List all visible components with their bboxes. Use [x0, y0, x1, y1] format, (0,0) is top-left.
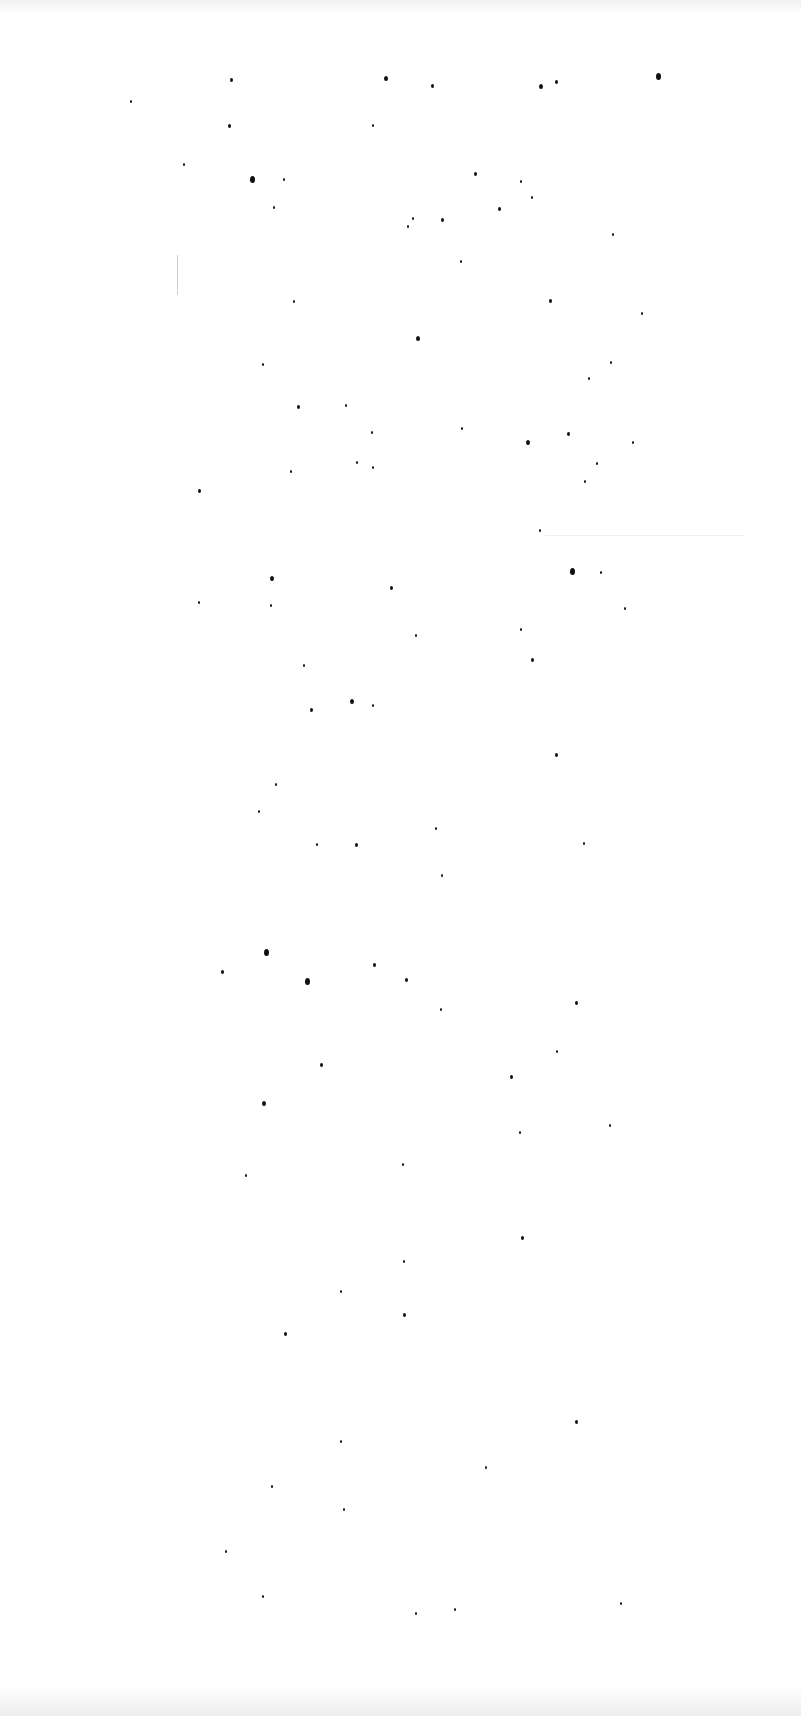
- noise-speck: [390, 586, 393, 590]
- noise-speck: [221, 970, 224, 974]
- noise-speck: [520, 180, 522, 183]
- noise-speck: [372, 466, 374, 469]
- noise-speck: [656, 73, 661, 80]
- noise-speck: [262, 1101, 266, 1106]
- noise-speck: [555, 80, 558, 84]
- noise-speck: [596, 462, 598, 465]
- noise-speck: [431, 84, 434, 88]
- noise-speck: [556, 1050, 558, 1053]
- noise-speck: [198, 601, 200, 604]
- noise-speck: [384, 76, 388, 81]
- noise-speck: [270, 604, 272, 607]
- noise-speck: [355, 843, 358, 847]
- noise-speck: [435, 827, 437, 830]
- noise-speck: [584, 480, 586, 483]
- noise-speck: [356, 461, 358, 464]
- noise-speck: [520, 628, 522, 631]
- noise-speck: [293, 300, 295, 303]
- noise-speck: [632, 441, 634, 444]
- noise-speck: [372, 124, 374, 127]
- noise-speck: [531, 196, 533, 199]
- noise-speck: [345, 404, 347, 407]
- noise-speck: [350, 699, 354, 704]
- noise-speck: [526, 440, 530, 445]
- noise-speck: [415, 634, 417, 637]
- scan-bottom-edge: [0, 1686, 801, 1716]
- noise-speck: [609, 1124, 611, 1127]
- noise-speck: [250, 176, 255, 183]
- noise-speck: [498, 207, 501, 211]
- noise-speck: [284, 1332, 287, 1336]
- noise-speck: [555, 753, 558, 757]
- noise-speck: [290, 470, 292, 473]
- noise-speck: [407, 225, 409, 228]
- noise-speck: [343, 1508, 345, 1511]
- noise-speck: [519, 1131, 521, 1134]
- noise-speck: [275, 783, 277, 786]
- noise-speck: [320, 1063, 323, 1067]
- noise-speck: [641, 312, 643, 315]
- noise-speck: [454, 1608, 456, 1611]
- noise-speck: [245, 1174, 247, 1177]
- noise-speck: [521, 1236, 524, 1240]
- noise-speck: [262, 1595, 264, 1598]
- noise-speck: [198, 489, 201, 493]
- noise-speck: [460, 260, 462, 263]
- noise-speck: [461, 427, 463, 430]
- noise-speck: [441, 218, 444, 222]
- noise-speck: [539, 84, 543, 89]
- noise-speck: [567, 432, 570, 436]
- noise-speck: [403, 1313, 406, 1317]
- noise-speck: [588, 377, 590, 380]
- noise-speck: [549, 299, 552, 303]
- noise-speck: [510, 1075, 513, 1079]
- noise-speck: [230, 78, 233, 82]
- noise-speck: [539, 529, 541, 532]
- noise-speck: [440, 1008, 442, 1011]
- noise-speck: [316, 843, 318, 846]
- noise-speck: [273, 206, 275, 209]
- scan-noise-layer: [0, 0, 801, 1716]
- noise-speck: [225, 1550, 227, 1553]
- noise-speck: [371, 431, 373, 434]
- noise-speck: [416, 336, 420, 341]
- noise-speck: [264, 949, 269, 956]
- noise-speck: [372, 704, 374, 707]
- noise-speck: [130, 100, 132, 103]
- noise-speck: [415, 1612, 417, 1615]
- noise-speck: [340, 1440, 342, 1443]
- noise-speck: [624, 607, 626, 610]
- noise-speck: [283, 178, 285, 181]
- noise-speck: [262, 363, 264, 366]
- noise-speck: [310, 708, 313, 712]
- noise-speck: [474, 172, 477, 176]
- noise-speck: [270, 576, 274, 581]
- noise-speck: [303, 664, 305, 667]
- noise-speck: [340, 1290, 342, 1293]
- noise-speck: [583, 842, 585, 845]
- noise-speck: [403, 1260, 405, 1263]
- noise-speck: [183, 163, 185, 166]
- noise-speck: [575, 1001, 578, 1005]
- noise-speck: [570, 568, 575, 575]
- noise-speck: [297, 405, 300, 409]
- noise-speck: [305, 978, 310, 985]
- noise-speck: [620, 1602, 622, 1605]
- noise-speck: [412, 217, 414, 220]
- noise-speck: [402, 1163, 404, 1166]
- noise-speck: [441, 874, 443, 877]
- noise-speck: [405, 978, 408, 982]
- noise-speck: [610, 361, 612, 364]
- noise-speck: [531, 658, 534, 662]
- noise-speck: [612, 233, 614, 236]
- noise-speck: [485, 1466, 487, 1469]
- noise-speck: [373, 963, 376, 967]
- noise-speck: [600, 571, 602, 574]
- noise-speck: [228, 124, 231, 128]
- noise-speck: [258, 810, 260, 813]
- noise-speck: [575, 1420, 578, 1424]
- noise-speck: [271, 1485, 273, 1488]
